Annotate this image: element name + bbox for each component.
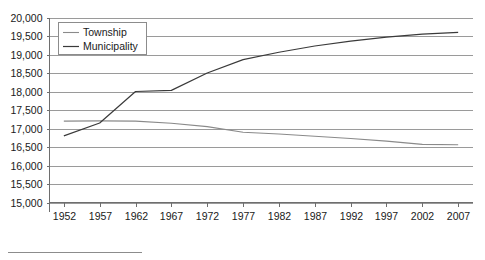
x-axis-tick-label: 1952 (53, 210, 77, 222)
y-axis-tick-label: 18,500 (10, 67, 42, 79)
y-axis-tick-label: 20,000 (10, 12, 42, 24)
x-axis-tick-label: 1987 (304, 210, 328, 222)
x-axis-tick-label: 2002 (411, 210, 435, 222)
chart-canvas: 15,00015,50016,00016,50017,00017,50018,0… (0, 0, 485, 260)
y-axis-tick-label: 18,000 (10, 86, 42, 98)
line-chart: 15,00015,50016,00016,50017,00017,50018,0… (0, 0, 485, 260)
x-axis-tick-labels: 1952195719621967197219771982198719921997… (53, 210, 471, 222)
y-axis-tick-labels: 15,00015,50016,00016,50017,00017,50018,0… (10, 12, 42, 209)
y-axis-tick-label: 15,500 (10, 178, 42, 190)
y-axis-tick-label: 17,000 (10, 123, 42, 135)
y-axis-tick-label: 19,500 (10, 30, 42, 42)
y-axis-tick-label: 17,500 (10, 104, 42, 116)
x-axis-tick-label: 1957 (89, 210, 113, 222)
chart-legend: Township Municipality (59, 23, 147, 55)
y-axis-tick-label: 16,500 (10, 141, 42, 153)
x-axis-tick-label: 1967 (160, 210, 184, 222)
x-axis-tick-label: 1992 (340, 210, 364, 222)
series-line-township (64, 121, 458, 145)
y-axis-tick-label: 19,000 (10, 49, 42, 61)
y-axis-tick-label: 15,000 (10, 197, 42, 209)
x-axis-tick-label: 1982 (268, 210, 292, 222)
x-axis-tick-label: 1962 (125, 210, 149, 222)
x-axis-tick-label: 1977 (232, 210, 256, 222)
x-axis-tick-label: 1972 (196, 210, 220, 222)
legend-label-township: Township (83, 26, 127, 38)
x-axis-tick-label: 2007 (447, 210, 471, 222)
y-axis-tick-label: 16,000 (10, 160, 42, 172)
x-axis-tick-label: 1997 (375, 210, 399, 222)
legend-label-municipality: Municipality (83, 40, 139, 52)
